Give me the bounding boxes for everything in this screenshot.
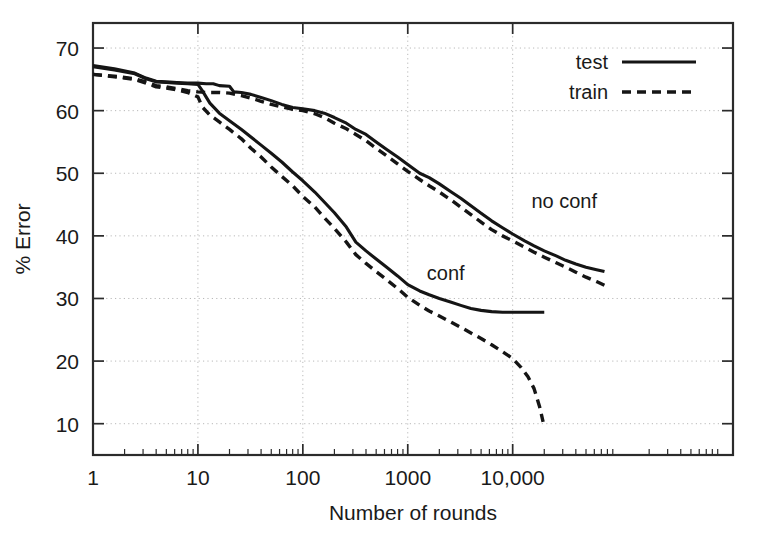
x-tick-label: 10: [186, 466, 209, 489]
legend-label-train: train: [569, 81, 608, 103]
y-axis-title: % Error: [11, 203, 34, 274]
x-tick-label: 10,000: [481, 466, 545, 489]
y-tick-label: 20: [56, 350, 79, 373]
error-vs-rounds-chart: 10203040506070 110100100010,000 no confc…: [0, 0, 765, 546]
y-tick-label: 30: [56, 287, 79, 310]
y-tick-label: 70: [56, 37, 79, 60]
x-axis-tick-labels: 110100100010,000: [87, 466, 545, 489]
y-tick-label: 10: [56, 413, 79, 436]
y-tick-label: 50: [56, 162, 79, 185]
plot-background: [93, 23, 733, 455]
x-tick-label: 1000: [384, 466, 431, 489]
legend-label-test: test: [576, 51, 609, 73]
x-tick-label: 100: [285, 466, 320, 489]
y-axis-tick-labels: 10203040506070: [56, 37, 79, 436]
annotation-conf: conf: [427, 262, 465, 284]
x-axis-title: Number of rounds: [329, 501, 497, 524]
chart-figure: 10203040506070 110100100010,000 no confc…: [0, 0, 765, 546]
y-tick-label: 60: [56, 100, 79, 123]
annotation-no-conf: no conf: [531, 190, 597, 212]
x-tick-label: 1: [87, 466, 99, 489]
y-tick-label: 40: [56, 225, 79, 248]
